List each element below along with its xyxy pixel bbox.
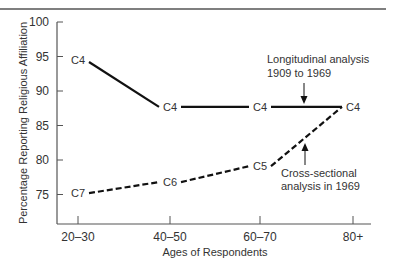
- y-tick-label: 95: [36, 50, 50, 64]
- point-label: C6: [163, 176, 177, 188]
- longitudinal-annotation-line2: 1909 to 1969: [267, 67, 331, 79]
- x-tick-label: 60–70: [243, 230, 277, 244]
- cross-sectional-annotation-line2: analysis in 1969: [281, 180, 360, 192]
- series-segment: [181, 166, 249, 182]
- point-label: C4: [163, 101, 177, 113]
- y-axis-title: Percentage Reporting Religious Affiliati…: [17, 22, 29, 224]
- x-tick-label: 80+: [343, 230, 363, 244]
- arrowhead-icon: [301, 96, 308, 104]
- y-tick-label: 85: [36, 119, 50, 133]
- series-segment: [271, 107, 342, 166]
- point-label: C5: [253, 160, 267, 172]
- x-tick-label: 20–30: [61, 230, 95, 244]
- series-segment: [89, 62, 159, 107]
- point-label: C7: [71, 187, 85, 199]
- point-label: C4: [71, 54, 85, 66]
- x-tick-label: 40–50: [153, 230, 187, 244]
- longitudinal-annotation-line1: Longitudinal analysis: [267, 53, 370, 65]
- x-axis: 20–3040–5060–7080+: [57, 216, 371, 244]
- point-label: C4: [346, 101, 360, 113]
- annotations: Longitudinal analysis1909 to 1969Cross-s…: [267, 53, 370, 192]
- y-axis: 7580859095100: [29, 15, 63, 224]
- arrowhead-icon: [302, 143, 309, 151]
- x-axis-title: Ages of Respondents: [162, 246, 268, 258]
- cross-sectional-annotation-line1: Cross-sectional: [281, 167, 357, 179]
- y-tick-label: 100: [29, 15, 49, 29]
- line-chart: 7580859095100 20–3040–5060–7080+ C4C4C4C…: [0, 0, 393, 276]
- y-tick-label: 75: [36, 188, 50, 202]
- y-tick-label: 80: [36, 153, 50, 167]
- series-segment: [89, 182, 159, 193]
- point-label: C4: [253, 101, 267, 113]
- y-tick-label: 90: [36, 84, 50, 98]
